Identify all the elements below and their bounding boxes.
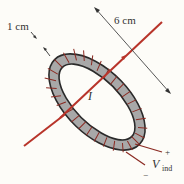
- thickness-label: 1 cm: [7, 20, 29, 32]
- plus-sign: +: [165, 147, 170, 157]
- lead-positive: [135, 144, 162, 152]
- toroid: [32, 37, 162, 167]
- toroid-diagram: I 6 cm 1 cm + V ind −: [0, 0, 184, 184]
- thickness-arrow-inner-icon: [43, 47, 47, 51]
- voltage-subscript: ind: [162, 164, 172, 173]
- voltage-label: V: [152, 157, 161, 171]
- minus-sign: −: [143, 170, 148, 180]
- diameter-label: 6 cm: [114, 14, 136, 26]
- toroid-windings: [32, 37, 162, 167]
- current-wire: [60, 22, 162, 118]
- lead-negative: [126, 152, 145, 165]
- current-label: I: [87, 89, 93, 103]
